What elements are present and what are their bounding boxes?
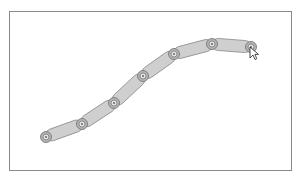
chain-stage: [0, 0, 303, 180]
joint-handle[interactable]: [41, 132, 52, 143]
joint-handle[interactable]: [77, 119, 88, 130]
joint-handle[interactable]: [138, 71, 149, 82]
joint-handle[interactable]: [207, 39, 218, 50]
chain-links[interactable]: [44, 38, 251, 143]
joint-handle[interactable]: [169, 49, 180, 60]
joint-handle[interactable]: [109, 98, 120, 109]
